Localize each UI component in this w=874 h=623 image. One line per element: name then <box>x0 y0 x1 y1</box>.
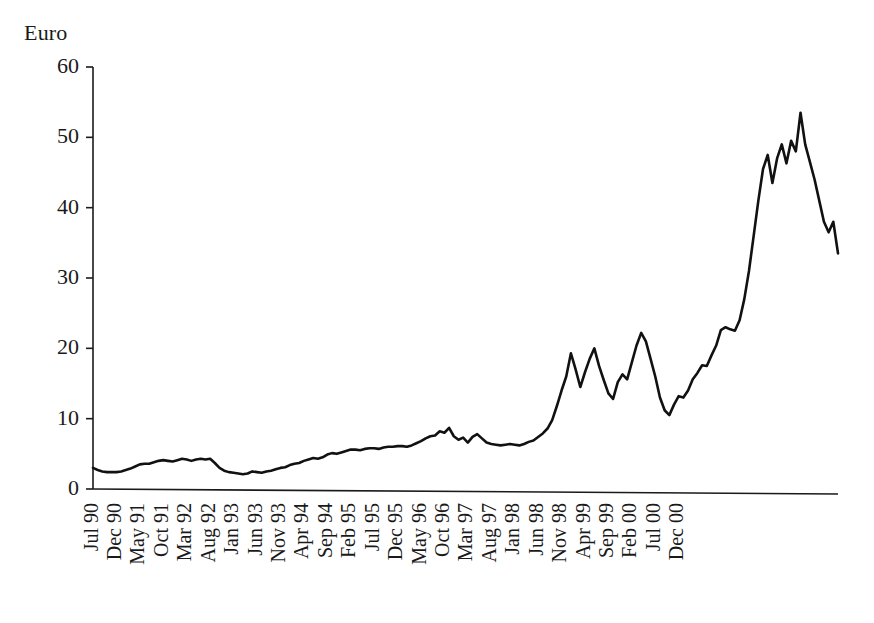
x-axis-tick-label: Dec 95 <box>384 503 406 560</box>
y-axis-tick-label: 50 <box>57 123 79 148</box>
x-axis-tick-label: Jun 98 <box>525 503 547 556</box>
y-axis-tick-label: 10 <box>57 405 79 430</box>
x-axis-tick-label: Apr 94 <box>290 503 313 559</box>
series-line-euro-price <box>93 113 838 475</box>
x-axis-tick-label: Apr 99 <box>572 503 595 559</box>
x-axis-tick-label: Jul 00 <box>642 503 664 551</box>
x-axis-tick-label: Aug 92 <box>197 503 220 562</box>
x-axis-tick-label: Nov 98 <box>548 503 570 562</box>
x-axis-tick-label: Dec 00 <box>665 503 687 560</box>
x-axis-tick-label: May 91 <box>126 503 149 565</box>
x-axis-tick-label: Jan 98 <box>501 503 523 555</box>
x-axis: Jul 90Dec 90May 91Oct 91Mar 92Aug 92Jan … <box>80 489 838 565</box>
chart-container: Euro 0102030405060 Jul 90Dec 90May 91Oct… <box>0 0 874 623</box>
x-axis-tick-label: Feb 00 <box>618 503 640 558</box>
line-chart: 0102030405060 Jul 90Dec 90May 91Oct 91Ma… <box>0 0 874 623</box>
x-axis-tick-label: Dec 90 <box>103 503 125 560</box>
y-axis-tick-label: 30 <box>57 264 79 289</box>
x-axis-tick-label: Aug 97 <box>478 503 501 562</box>
x-axis-tick-label: Mar 97 <box>454 503 476 561</box>
x-axis-tick-label: Jul 95 <box>361 503 383 551</box>
y-axis: 0102030405060 <box>57 53 93 500</box>
y-axis-tick-label: 40 <box>57 194 79 219</box>
x-axis-tick-label: Jan 93 <box>220 503 242 555</box>
x-axis-tick-label: Oct 96 <box>431 503 453 557</box>
x-axis-baseline <box>93 489 838 494</box>
x-axis-tick-label: Sep 94 <box>314 503 337 558</box>
x-axis-tick-label: Jul 90 <box>80 503 102 551</box>
x-axis-tick-label: Oct 91 <box>150 503 172 557</box>
x-axis-tick-label: Mar 92 <box>173 503 195 561</box>
x-axis-tick-label: Feb 95 <box>337 503 359 558</box>
y-axis-tick-label: 60 <box>57 53 79 78</box>
x-axis-tick-label: May 96 <box>408 503 431 565</box>
x-axis-tick-label: Nov 93 <box>267 503 289 562</box>
x-axis-tick-label: Jun 93 <box>244 503 266 556</box>
y-axis-tick-label: 20 <box>57 334 79 359</box>
y-axis-tick-label: 0 <box>68 475 79 500</box>
x-axis-tick-label: Sep 99 <box>595 503 618 558</box>
